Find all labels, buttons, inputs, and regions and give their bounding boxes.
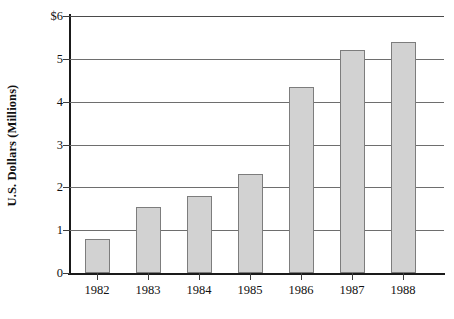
y-tick-mark-4	[63, 102, 70, 103]
bar-1986[interactable]	[289, 87, 314, 273]
y-tick-label-6: $6	[29, 9, 63, 24]
y-tick-label-5: 5	[29, 51, 63, 66]
bar-1982[interactable]	[85, 239, 110, 273]
gridline-4	[69, 102, 444, 103]
y-tick-mark-5	[63, 59, 70, 60]
gridline-3	[69, 145, 444, 146]
bar-chart: U.S. Dollars (Millions) $6 5 4 3 2 1 0	[0, 0, 454, 319]
y-tick-label-0: 0	[29, 266, 63, 281]
bar-1983[interactable]	[136, 207, 161, 273]
y-tick-mark-2	[63, 187, 70, 188]
x-tick-mark-1984	[199, 273, 200, 280]
y-axis-title: U.S. Dollars (Millions)	[0, 0, 26, 290]
x-tick-mark-1986	[301, 273, 302, 280]
x-tick-mark-1988	[403, 273, 404, 280]
gridline-6	[69, 16, 444, 17]
y-tick-label-4: 4	[29, 94, 63, 109]
y-tick-mark-0	[63, 273, 70, 274]
x-tick-mark-1987	[352, 273, 353, 280]
bar-1988[interactable]	[391, 42, 416, 273]
bar-1984[interactable]	[187, 196, 212, 273]
bar-1985[interactable]	[238, 174, 263, 273]
y-axis-title-text: U.S. Dollars (Millions)	[6, 84, 21, 206]
x-axis-line	[68, 273, 445, 275]
x-tick-label-1988: 1988	[373, 283, 433, 298]
y-tick-mark-3	[63, 145, 70, 146]
x-tick-mark-1982	[97, 273, 98, 280]
y-tick-label-1: 1	[29, 223, 63, 238]
gridline-5	[69, 59, 444, 60]
y-tick-mark-1	[63, 230, 70, 231]
bar-1987[interactable]	[340, 50, 365, 273]
x-tick-mark-1983	[148, 273, 149, 280]
y-axis-tick-labels: $6 5 4 3 2 1 0	[27, 16, 63, 273]
x-tick-mark-1985	[250, 273, 251, 280]
y-tick-label-3: 3	[29, 137, 63, 152]
y-tick-mark-6	[63, 16, 70, 17]
plot-area	[69, 16, 444, 273]
y-tick-label-2: 2	[29, 180, 63, 195]
